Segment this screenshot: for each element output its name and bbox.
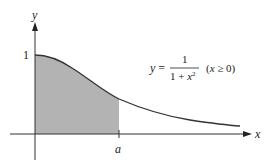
y-axis-arrow-icon [32,22,38,31]
equation-numerator: 1 [182,53,188,65]
x-axis-label: x [254,127,261,141]
equation-lhs: y = [149,61,165,75]
x-tick-label: a [115,142,121,156]
function-graph: y x 1 a y = 1 1 + x2 (x ≥ 0) [0,0,273,168]
y-tick-label: 1 [23,48,29,62]
equation-domain: (x ≥ 0) [206,62,236,75]
y-axis-label: y [31,8,38,22]
equation: y = 1 1 + x2 (x ≥ 0) [149,53,236,82]
shaded-area [35,55,119,134]
x-axis-arrow-icon [243,131,252,137]
equation-denominator: 1 + x2 [170,70,196,82]
